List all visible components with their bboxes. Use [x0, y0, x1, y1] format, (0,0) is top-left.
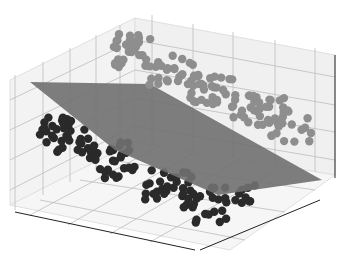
- 3d-scatter-plot: [0, 0, 363, 273]
